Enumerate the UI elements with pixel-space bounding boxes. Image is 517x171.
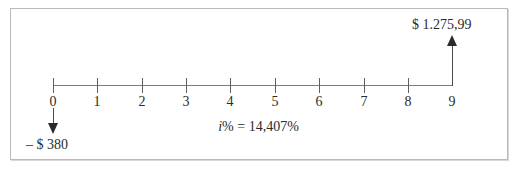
interest-rate-value: % = 14,407% (222, 119, 299, 134)
axis-label-4: 4 (215, 94, 245, 110)
axis-label-6: 6 (304, 94, 334, 110)
axis-tick-5 (275, 78, 276, 93)
axis-label-2: 2 (127, 94, 157, 110)
axis-tick-0 (53, 78, 54, 93)
axis-tick-1 (97, 78, 98, 93)
axis-tick-8 (408, 78, 409, 93)
axis-label-8: 8 (393, 94, 423, 110)
inflow-amount-label: $ 1.275,99 (412, 17, 472, 33)
axis-tick-2 (142, 78, 143, 93)
axis-label-7: 7 (349, 94, 379, 110)
inflow-arrow-icon (447, 35, 457, 46)
outflow-amount-label: – $ 380 (26, 137, 68, 153)
timeline-axis (53, 85, 453, 86)
axis-label-3: 3 (171, 94, 201, 110)
axis-label-5: 5 (260, 94, 290, 110)
cash-flow-diagram: 0 1 2 3 4 5 6 7 8 9 $ 1.275,99 – $ 380 i… (0, 0, 517, 171)
interest-rate-label: i% = 14,407% (0, 119, 517, 135)
inflow-arrow-stem (452, 44, 453, 86)
axis-label-1: 1 (82, 94, 112, 110)
axis-tick-7 (364, 78, 365, 93)
axis-tick-6 (319, 78, 320, 93)
axis-tick-3 (186, 78, 187, 93)
axis-label-9: 9 (437, 94, 467, 110)
axis-tick-4 (230, 78, 231, 93)
